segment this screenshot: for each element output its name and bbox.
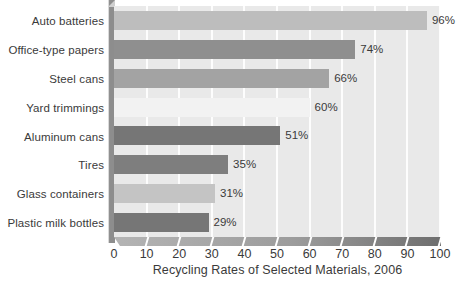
bar-value-label: 29%	[214, 213, 237, 232]
bar-value-label: 31%	[220, 184, 243, 203]
bar	[114, 69, 329, 88]
x-axis-title: Recycling Rates of Selected Materials, 2…	[114, 263, 441, 277]
category-label: Yard trimmings	[26, 94, 104, 123]
category-axis-labels: Auto batteriesOffice-type papersSteel ca…	[0, 8, 108, 237]
bar	[114, 11, 427, 30]
category-label: Office-type papers	[8, 36, 104, 65]
bar	[114, 126, 280, 145]
category-label: Plastic milk bottles	[7, 209, 104, 238]
gridline-100	[439, 6, 440, 237]
x-tick-label: 100	[420, 247, 456, 261]
bar	[114, 98, 310, 117]
bar	[114, 40, 355, 59]
gridline-90	[406, 6, 408, 237]
recycling-rates-bar-chart: Auto batteriesOffice-type papersSteel ca…	[0, 0, 456, 285]
bar-value-label: 35%	[233, 155, 256, 174]
bar-value-label: 60%	[315, 98, 338, 117]
category-label: Steel cans	[49, 65, 104, 94]
bar-value-label: 74%	[360, 40, 383, 59]
category-label: Aluminum cans	[24, 123, 104, 152]
bar-value-label: 96%	[432, 11, 455, 30]
bar-value-label: 66%	[334, 69, 357, 88]
category-label: Auto batteries	[32, 7, 104, 36]
category-label: Glass containers	[17, 180, 104, 209]
bar-value-label: 51%	[285, 126, 308, 145]
plot-inner	[114, 6, 440, 237]
category-label: Tires	[78, 151, 104, 180]
plot-area	[114, 6, 440, 237]
bar	[114, 213, 209, 232]
bar	[114, 155, 228, 174]
bar	[114, 184, 215, 203]
